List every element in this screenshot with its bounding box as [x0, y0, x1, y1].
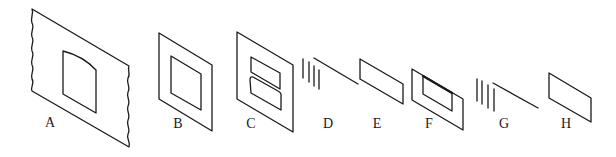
panel-d-label: D [323, 116, 333, 131]
panel-d: D [303, 58, 358, 131]
panel-h-label: H [561, 116, 571, 131]
panel-c-lower-window [250, 77, 281, 110]
panel-g-label: G [499, 116, 509, 131]
panel-c-label: C [246, 116, 255, 131]
panel-a-label: A [45, 115, 56, 130]
panel-b-label: B [173, 116, 182, 131]
panel-b-frame [159, 33, 212, 131]
panel-e-label: E [373, 116, 382, 131]
panel-d-diagonal [314, 58, 358, 84]
panel-a-window [63, 51, 96, 113]
panel-g-diagonal [493, 83, 538, 108]
panel-h-plate [549, 73, 591, 122]
panel-f-label: F [425, 116, 433, 131]
panel-b-window [171, 56, 201, 110]
panel-g: G [477, 79, 538, 131]
panel-e-plate [360, 59, 403, 104]
panel-f-frame [412, 69, 463, 130]
panel-f-window [423, 76, 452, 111]
diagram-figure: A B C D E F G [0, 0, 616, 157]
panel-h: H [549, 73, 591, 131]
panel-f-thick-edge [423, 76, 452, 93]
panel-c: C [237, 32, 293, 132]
panel-e: E [360, 59, 403, 131]
panel-a: A [31, 9, 129, 147]
panel-f: F [412, 69, 463, 131]
panel-b: B [159, 33, 212, 131]
